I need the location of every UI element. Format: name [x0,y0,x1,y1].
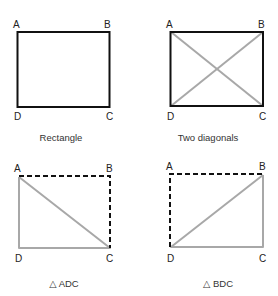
vertex-c-label: C [259,253,266,264]
caption-two-diagonals: Two diagonals [178,132,239,143]
vertex-a-label: A [166,161,173,172]
vertex-a-label: A [166,19,173,30]
vertex-c-label: C [259,111,266,122]
vertex-d-label: D [15,253,22,264]
triangle-bdc [171,175,263,247]
vertex-a-label: A [14,163,21,174]
vertex-a-label: A [13,19,20,30]
vertex-b-label: B [259,161,266,172]
panel-two-diagonals: A B D C Two diagonals [166,19,266,143]
vertex-d-label: D [167,253,174,264]
panel-triangle-adc: A B D C △ ADC [14,163,113,289]
rectangle-diagonals-diagram: A B D C Rectangle A B D C Two diagonals … [0,0,278,296]
panel-triangle-bdc: A B D C △ BDC [166,161,266,289]
panel-rectangle: A B D C Rectangle [13,19,113,143]
rectangle-abcd [18,32,110,107]
vertex-b-label: B [106,163,113,174]
caption-triangle-bdc: △ BDC [203,278,233,289]
vertex-c-label: C [106,111,113,122]
caption-triangle-adc: △ ADC [49,278,79,289]
caption-rectangle: Rectangle [40,132,83,143]
vertex-d-label: D [167,111,174,122]
vertex-c-label: C [106,253,113,264]
vertex-d-label: D [14,111,21,122]
vertex-b-label: B [258,19,265,30]
triangle-adc [19,177,110,248]
vertex-b-label: B [104,19,111,30]
